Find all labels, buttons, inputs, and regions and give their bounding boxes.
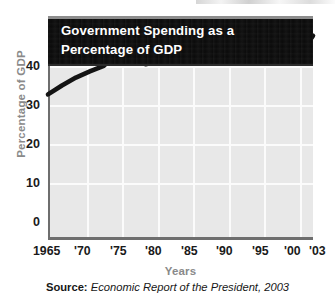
x-tick-label-2000: '00 <box>284 244 301 258</box>
scan-artifact-strip <box>196 0 335 4</box>
y-tick-label-0: 0 <box>6 215 40 229</box>
source-label: Source: <box>46 281 88 293</box>
x-tick-label-1980: '80 <box>145 244 162 258</box>
x-tick-label-1995: '95 <box>252 244 269 258</box>
x-tick-label-1975: '75 <box>110 244 127 258</box>
source-citation: Economic Report of the President, 2003 <box>91 281 289 293</box>
source-line: Source: Economic Report of the President… <box>0 281 335 293</box>
x-tick-label-1970: '70 <box>74 244 91 258</box>
x-tick-label-2003: '03 <box>309 244 326 258</box>
x-tick-label-1990: '90 <box>216 244 233 258</box>
chart-figure: Government Spending as a Percentage of G… <box>0 0 335 302</box>
y-axis-title: Percentage of GDP <box>15 29 27 179</box>
x-tick-label-1965: 1965 <box>33 244 60 258</box>
chart-title-banner: Government Spending as a Percentage of G… <box>48 16 313 66</box>
x-axis-title: Years <box>48 265 313 277</box>
x-tick-label-1985: '85 <box>181 244 198 258</box>
chart-title: Government Spending as a Percentage of G… <box>61 21 307 59</box>
